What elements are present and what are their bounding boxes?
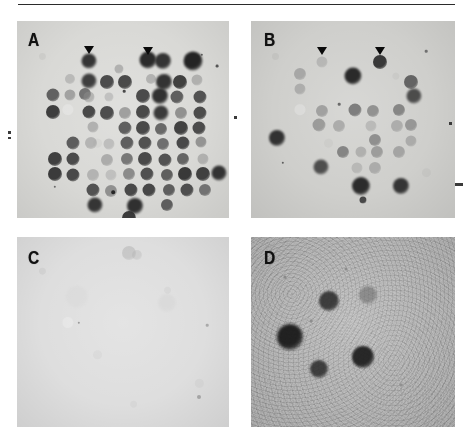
blot-spot [82,54,97,69]
blot-spot [161,199,173,211]
blot-spot [269,130,285,146]
film-speck [400,384,403,387]
blot-spot [177,153,189,165]
blot-spot [85,137,97,149]
blot-spot [174,121,188,135]
blot-spot [198,154,209,165]
panel-d-label: D [264,248,275,267]
film-speck [216,65,219,68]
panel-d: D [251,237,455,427]
blot-spot [132,250,142,260]
blot-spot [407,89,422,104]
blot-spot [136,105,150,119]
blot-spot [48,152,62,166]
blot-spot [193,122,206,135]
arrowhead-marker-icon [84,46,94,54]
blot-spot [369,134,381,146]
blot-spot [138,152,152,166]
blot-spot [65,90,76,101]
panel-a-vignette [17,21,229,218]
film-speck [282,162,284,164]
blot-spot [157,138,169,150]
blot-spot [105,93,114,102]
blot-spot [393,104,405,116]
blot-spot [345,68,362,85]
blot-spot [65,74,75,84]
blot-spot [104,139,115,150]
blot-spot [196,167,210,181]
blot-spot [88,198,103,213]
figure-root: A B C D [0,0,470,446]
blot-spot [171,91,184,104]
blot-spot [319,291,339,311]
blot-spot [101,154,113,166]
blot-spot [367,105,379,117]
blot-spot [212,166,227,181]
blot-spot [352,163,363,174]
blot-spot [194,107,207,120]
blot-spot [119,122,132,135]
edge-artifact-mark [234,116,237,119]
blot-spot [404,75,418,89]
blot-spot [122,211,136,218]
top-horizontal-rule [18,4,455,5]
blot-spot [119,107,131,119]
film-speck [425,50,428,53]
film-speck [283,275,286,278]
blot-spot [100,106,114,120]
blot-spot [159,154,172,167]
blot-spot [125,184,138,197]
blot-spot [393,146,405,158]
blot-spot [161,169,173,181]
blot-spot [373,55,387,69]
blot-spot [313,119,326,132]
blot-spot [46,105,60,119]
blot-spot [152,88,168,104]
film-speck [206,324,209,327]
blot-spot [406,136,417,147]
blot-spot [359,286,377,304]
blot-spot [67,169,80,182]
panel-c-label: C [28,248,39,267]
film-speck [111,190,115,194]
panel-a: A [17,21,229,218]
blot-spot [136,121,150,135]
film-speck [78,322,80,324]
panel-a-film-grain [17,21,229,218]
blot-spot [66,286,88,308]
blot-spot [87,169,99,181]
blot-spot [314,160,329,175]
blot-spot [192,75,203,86]
blot-spot [136,89,150,103]
arrowhead-marker-icon [375,47,385,55]
blot-spot [67,153,80,166]
blot-spot [181,184,194,197]
blot-spot [143,184,156,197]
arrowhead-marker-icon [143,47,153,55]
film-speck [345,268,348,271]
edge-artifact-mark [8,131,11,134]
blot-spot [154,106,169,121]
blot-spot [277,324,303,350]
blot-spot [371,146,383,158]
blot-spot [194,91,207,104]
blot-spot [405,119,417,131]
blot-spot [369,162,381,174]
blot-spot [366,121,377,132]
blot-spot [67,137,80,150]
blot-spot [100,75,114,89]
blot-spot [155,53,171,69]
blot-spot [173,75,187,89]
blot-spot [84,92,95,103]
film-speck [123,90,126,93]
panel-b-label: B [264,30,275,49]
blot-spot [360,197,367,204]
blot-spot [393,178,409,194]
blot-spot [118,75,132,89]
blot-spot [106,170,117,181]
blot-spot [352,177,370,195]
blot-spot [88,122,99,133]
blot-spot [48,167,62,181]
blot-spot [175,107,187,119]
blot-spot [177,137,190,150]
